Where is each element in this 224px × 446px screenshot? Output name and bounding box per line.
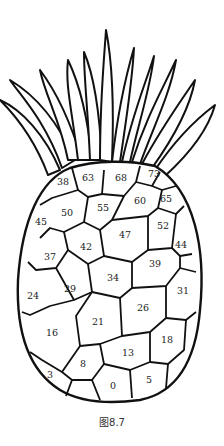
scale-number: 8 — [80, 358, 86, 369]
scale-number: 63 — [82, 172, 94, 183]
scale-number: 44 — [175, 239, 187, 250]
scale-number: 73 — [148, 168, 160, 179]
scale-number: 13 — [122, 347, 134, 358]
scale-number: 34 — [107, 272, 119, 283]
scale-number: 38 — [57, 176, 69, 187]
scale-number: 45 — [35, 216, 47, 227]
scale-number: 31 — [177, 285, 189, 296]
scale-number: 68 — [115, 172, 127, 183]
figure-caption: 图8.7 — [0, 414, 224, 429]
pineapple-crown — [0, 30, 215, 176]
scale-number: 60 — [134, 195, 146, 206]
scale-number: 50 — [61, 207, 73, 218]
scale-number: 47 — [119, 229, 131, 240]
scale-number: 37 — [44, 251, 56, 262]
scale-number: 18 — [161, 334, 173, 345]
scale-number: 16 — [46, 327, 58, 338]
pineapple-diagram: 3863687350556065455247424437393429243126… — [0, 0, 224, 446]
scale-number: 0 — [110, 380, 116, 391]
scale-number: 39 — [149, 258, 161, 269]
scale-number: 5 — [146, 374, 152, 385]
scale-number: 52 — [157, 220, 169, 231]
scale-number: 42 — [80, 241, 92, 252]
scale-number: 26 — [137, 302, 149, 313]
scale-number: 65 — [160, 193, 172, 204]
scale-number: 29 — [64, 283, 76, 294]
scale-number: 21 — [92, 316, 104, 327]
scale-number: 24 — [27, 290, 39, 301]
scale-number: 3 — [47, 369, 53, 380]
scale-number: 55 — [97, 202, 109, 213]
